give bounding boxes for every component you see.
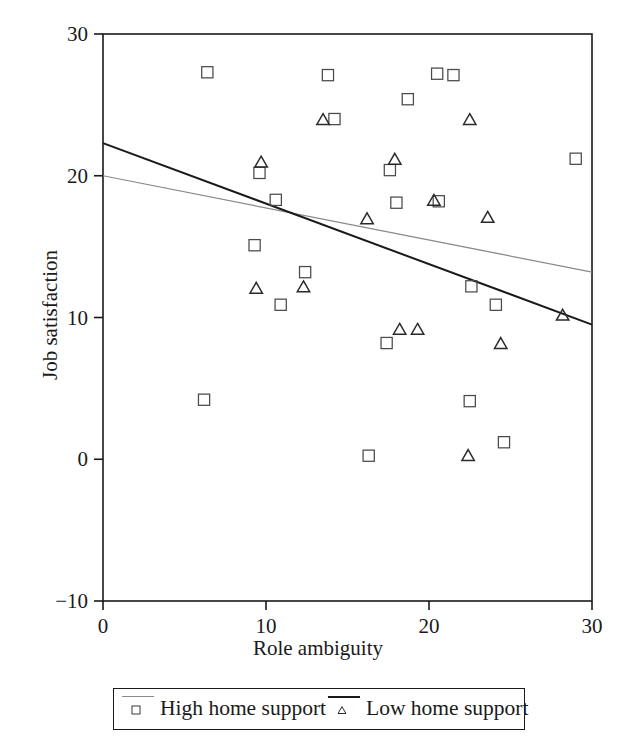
- trend-line-low-home-support: [103, 143, 592, 324]
- data-point: [329, 113, 340, 124]
- y-tick-label: 30: [0, 24, 88, 45]
- data-point: [275, 299, 286, 310]
- data-point: [448, 70, 459, 81]
- data-point: [570, 153, 581, 164]
- data-point: [381, 337, 392, 348]
- data-point: [249, 240, 260, 251]
- legend-entry-low-home-support[interactable]: Low home support: [326, 689, 528, 729]
- plot-area: 30 20 10 0 −10 0 10 20 30 Job satisfacti…: [0, 0, 636, 660]
- data-point: [317, 114, 329, 125]
- y-tick-label: 0: [0, 449, 88, 470]
- legend-line-swatch: [122, 696, 154, 697]
- data-point: [495, 338, 507, 349]
- series-high-home-support: [198, 67, 581, 462]
- legend-label: High home support: [156, 698, 326, 720]
- x-tick-label: 30: [582, 616, 603, 637]
- scatter-plot-figure: 30 20 10 0 −10 0 10 20 30 Job satisfacti…: [0, 0, 636, 755]
- legend-label: Low home support: [362, 698, 528, 720]
- data-point: [462, 450, 474, 461]
- data-point: [384, 164, 395, 175]
- data-point: [498, 437, 509, 448]
- data-point: [490, 299, 501, 310]
- data-point: [432, 68, 443, 79]
- legend: High home support Low home support: [113, 688, 525, 730]
- y-tick-label: −10: [0, 591, 88, 612]
- data-point: [411, 323, 423, 334]
- data-point: [297, 281, 309, 292]
- x-tick-label: 0: [98, 616, 109, 637]
- legend-key-triangle: [326, 689, 362, 729]
- legend-line-swatch: [328, 696, 360, 698]
- trend-line-high-home-support: [103, 176, 592, 272]
- data-point: [466, 281, 477, 292]
- data-point: [393, 323, 405, 334]
- data-point: [389, 153, 401, 164]
- data-point: [250, 282, 262, 293]
- plot-frame: [103, 34, 592, 601]
- data-point: [198, 394, 209, 405]
- legend-entry-high-home-support[interactable]: High home support: [120, 689, 326, 729]
- data-point: [202, 67, 213, 78]
- data-point: [481, 211, 493, 222]
- data-point: [270, 194, 281, 205]
- data-point: [300, 267, 311, 278]
- square-marker-icon: [132, 706, 141, 715]
- triangle-marker-icon: [338, 706, 347, 715]
- x-tick-label: 20: [419, 616, 440, 637]
- data-point: [254, 167, 265, 178]
- data-point: [363, 450, 374, 461]
- y-tick-label: 20: [0, 165, 88, 186]
- data-point: [322, 70, 333, 81]
- plot-canvas: [0, 0, 636, 660]
- data-point: [391, 197, 402, 208]
- data-point: [361, 213, 373, 224]
- legend-key-square: [120, 689, 156, 729]
- x-axis-title: Role ambiguity: [0, 638, 636, 659]
- data-point: [464, 114, 476, 125]
- data-point: [402, 94, 413, 105]
- data-point: [255, 156, 267, 167]
- y-axis-title: Job satisfaction: [38, 250, 63, 380]
- series-low-home-support: [250, 114, 569, 461]
- data-point: [464, 396, 475, 407]
- x-tick-label: 10: [256, 616, 277, 637]
